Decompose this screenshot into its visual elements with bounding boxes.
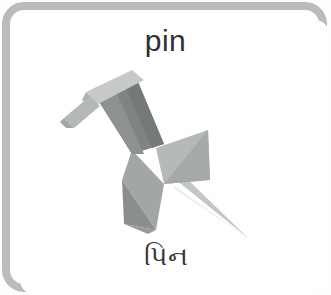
word-translation: પિન: [0, 240, 331, 272]
pushpin-illustration: [60, 62, 270, 247]
word-english: pin: [0, 24, 331, 58]
flashcard: pin: [0, 0, 331, 295]
pin-needle-shadow: [172, 184, 256, 244]
pin-cap-stem: [64, 96, 100, 128]
